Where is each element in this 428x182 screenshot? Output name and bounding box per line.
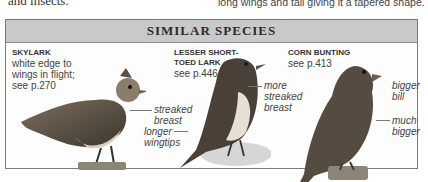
annot-line: bigger bbox=[392, 126, 420, 137]
annotation-bigger-bill: bigger bill bbox=[392, 80, 420, 102]
skylark-illustration-icon bbox=[16, 60, 146, 170]
leader-line bbox=[376, 120, 390, 121]
box-header: SIMILAR SPECIES bbox=[6, 20, 417, 43]
box-title: SIMILAR SPECIES bbox=[147, 23, 277, 39]
annot-line: bill bbox=[392, 91, 420, 102]
corn-bunting-illustration-icon bbox=[276, 56, 386, 182]
lesser-short-toed-lark-illustration-icon bbox=[176, 42, 271, 170]
leader-line bbox=[130, 110, 152, 111]
annotation-longer-wingtips: longer wingtips bbox=[144, 126, 180, 148]
body-text-fragment-right: long wings and tail giving it a tapered … bbox=[218, 0, 425, 8]
annot-line: wingtips bbox=[144, 137, 180, 148]
annotation-much-bigger: much bigger bbox=[392, 115, 420, 137]
annot-line: bigger bbox=[392, 80, 420, 91]
body-text-fragment-left: and insects. bbox=[8, 0, 69, 9]
species-name-skylark: SKYLARK bbox=[12, 48, 51, 58]
similar-species-box: SIMILAR SPECIES SKYLARK white edge to wi… bbox=[5, 19, 418, 169]
leader-line bbox=[248, 86, 262, 87]
annot-line: much bbox=[392, 115, 420, 126]
